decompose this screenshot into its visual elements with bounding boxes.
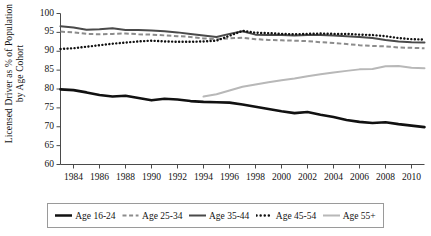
y-tick-label: 60 — [28, 159, 54, 169]
chart-svg — [0, 0, 431, 190]
y-tick-label: 70 — [28, 121, 54, 131]
legend-swatch — [323, 211, 340, 220]
series-line-age-55 — [204, 66, 425, 97]
y-tick-label: 65 — [28, 140, 54, 150]
legend-label: Age 55+ — [343, 211, 376, 221]
series-line-age-16-24 — [61, 89, 425, 127]
y-tick-label: 100 — [28, 8, 54, 18]
legend-swatch — [122, 211, 139, 220]
legend-item-age-16-24[interactable]: Age 16-24 — [55, 211, 115, 221]
legend-swatch — [256, 211, 273, 220]
y-tick-label: 80 — [28, 83, 54, 93]
y-tick-label: 75 — [28, 102, 54, 112]
series-line-age-45-54 — [61, 31, 425, 49]
legend-swatch — [55, 211, 72, 220]
legend-label: Age 45-54 — [276, 211, 316, 221]
y-tick-label: 90 — [28, 45, 54, 55]
y-tick-label: 85 — [28, 64, 54, 74]
legend-item-age-25-34[interactable]: Age 25-34 — [122, 211, 182, 221]
legend-swatch — [189, 211, 206, 220]
plot-area — [0, 0, 431, 190]
legend-item-age-35-44[interactable]: Age 35-44 — [189, 211, 249, 221]
chart-figure: Licensed Driver as % of Population by Ag… — [0, 0, 431, 236]
legend-label: Age 35-44 — [209, 211, 249, 221]
y-tick-label: 95 — [28, 26, 54, 36]
legend-label: Age 25-34 — [142, 211, 182, 221]
x-tick-label: 2010 — [392, 172, 431, 182]
legend-label: Age 16-24 — [75, 211, 115, 221]
legend-item-age-45-54[interactable]: Age 45-54 — [256, 211, 316, 221]
chart-legend: Age 16-24Age 25-34Age 35-44Age 45-54Age … — [47, 203, 384, 228]
legend-item-age-55[interactable]: Age 55+ — [323, 211, 376, 221]
